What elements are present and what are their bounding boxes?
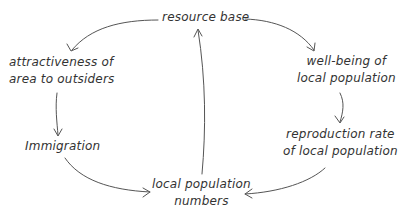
arrow-population-to-resource [194,29,205,174]
node-resource-base-line1: resource base [162,9,249,26]
arrow-reproduction-to-population [245,168,325,198]
node-reproduction-line2: of local population [283,143,398,160]
node-attractiveness: attractiveness of area to outsiders [9,54,115,88]
node-immigration: Immigration [25,138,100,155]
node-attractiveness-line1: attractiveness of [9,54,115,71]
node-population-numbers: local population numbers [152,176,251,210]
arrow-resource-to-attractiveness [67,20,158,51]
node-wellbeing-line2: local population [297,70,396,87]
node-population-numbers-line1: local population [152,176,251,193]
node-wellbeing-line1: well-being of [297,53,396,70]
node-population-numbers-line2: numbers [152,193,251,210]
node-resource-base: resource base [162,9,249,26]
node-immigration-line1: Immigration [25,138,100,155]
arrow-attractiveness-to-immigration [54,93,62,136]
node-reproduction: reproduction rate of local population [283,126,398,160]
node-attractiveness-line2: area to outsiders [9,71,115,88]
node-reproduction-line1: reproduction rate [283,126,398,143]
arrow-wellbeing-to-reproduction [335,93,344,123]
arrow-immigration-to-population [65,158,150,197]
node-wellbeing: well-being of local population [297,53,396,87]
arrow-resource-to-wellbeing [245,19,315,51]
